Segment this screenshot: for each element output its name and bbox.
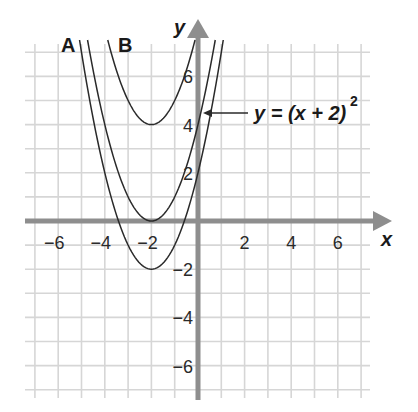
parabola-graph: −6−4−2246 642−2−4−6 x y A B y = (x + 2) … — [0, 0, 418, 412]
x-tick-label: 6 — [333, 233, 343, 253]
equation-base: y = (x + 2) — [253, 102, 347, 124]
y-tick-label: −4 — [172, 308, 193, 328]
equation-label: y = (x + 2) — [253, 102, 347, 124]
y-tick-label: 4 — [183, 116, 193, 136]
x-tick-label: 2 — [240, 233, 250, 253]
x-tick-label: −2 — [137, 233, 158, 253]
x-tick-label: −4 — [91, 233, 112, 253]
x-tick-labels: −6−4−2246 — [44, 233, 343, 253]
equation-pointer-arrow-icon — [203, 109, 212, 117]
y-axis-arrow-icon — [187, 19, 209, 38]
y-axis-label: y — [173, 16, 186, 38]
y-tick-label: −6 — [172, 357, 193, 377]
x-tick-label: 4 — [286, 233, 296, 253]
curve-label-a: A — [61, 34, 75, 56]
equation-exponent: 2 — [350, 93, 358, 109]
y-tick-label: −2 — [172, 260, 193, 280]
x-axis-label: x — [380, 228, 393, 250]
curve-label-b: B — [118, 34, 132, 56]
x-tick-label: −6 — [44, 233, 65, 253]
